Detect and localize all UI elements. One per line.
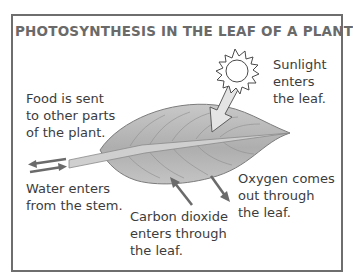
label-food: Food is sent to other parts of the plant… [26,90,115,141]
label-water: Water enters from the stem. [26,180,123,214]
label-carbon-dioxide: Carbon dioxide enters through the leaf. [130,208,228,259]
label-oxygen: Oxygen comes out through the leaf. [238,170,335,221]
sun-icon [216,49,259,94]
stem-arrows [28,159,67,172]
oxygen-arrow [211,176,230,202]
food-arrow-head [28,160,37,168]
water-arrow-head [58,163,67,171]
label-sunlight: Sunlight enters the leaf. [273,56,327,107]
